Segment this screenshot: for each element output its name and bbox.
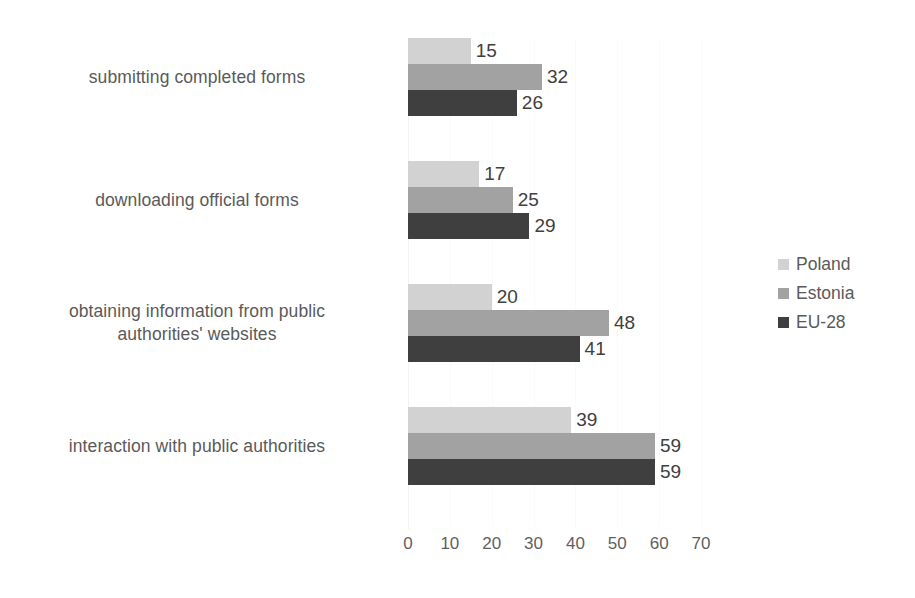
- x-tick-label-20: 20: [482, 534, 501, 554]
- bar-group: 172529: [408, 161, 701, 239]
- legend-item-eu-28[interactable]: EU-28: [778, 310, 854, 334]
- bar-row: 59: [408, 459, 701, 485]
- bar-row: 41: [408, 336, 701, 362]
- bar-row: 32: [408, 64, 701, 90]
- legend-swatch-icon: [778, 259, 789, 270]
- bar-chart: submitting completed formsdownloading of…: [0, 0, 915, 598]
- x-tick-label-40: 40: [566, 534, 585, 554]
- bar-poland[interactable]: [408, 38, 471, 64]
- category-label: submitting completed forms: [12, 66, 382, 89]
- bar-poland[interactable]: [408, 284, 492, 310]
- x-tick-label-10: 10: [440, 534, 459, 554]
- gridline-70: [701, 38, 702, 530]
- bar-estonia[interactable]: [408, 187, 513, 213]
- bar-row: 15: [408, 38, 701, 64]
- bar-value-label: 39: [571, 409, 597, 431]
- bar-eu-28[interactable]: [408, 90, 517, 116]
- legend-label: Poland: [796, 254, 851, 275]
- bar-value-label: 26: [517, 92, 543, 114]
- legend-swatch-icon: [778, 317, 789, 328]
- bar-value-label: 29: [529, 215, 555, 237]
- value-axis-tick-labels: 010203040506070: [408, 534, 701, 564]
- bar-value-label: 59: [655, 435, 681, 457]
- bar-value-label: 32: [542, 66, 568, 88]
- bar-value-label: 15: [471, 40, 497, 62]
- category-axis-labels: submitting completed formsdownloading of…: [0, 0, 392, 598]
- x-tick-label-70: 70: [692, 534, 711, 554]
- category-label: downloading official forms: [12, 189, 382, 212]
- bar-group: 204841: [408, 284, 701, 362]
- bar-value-label: 17: [479, 163, 505, 185]
- bar-poland[interactable]: [408, 407, 571, 433]
- bar-row: 26: [408, 90, 701, 116]
- bar-value-label: 41: [580, 338, 606, 360]
- bar-eu-28[interactable]: [408, 336, 580, 362]
- bar-row: 20: [408, 284, 701, 310]
- legend-item-estonia[interactable]: Estonia: [778, 281, 854, 305]
- x-tick-label-60: 60: [650, 534, 669, 554]
- bar-row: 59: [408, 433, 701, 459]
- bar-value-label: 48: [609, 312, 635, 334]
- bar-poland[interactable]: [408, 161, 479, 187]
- x-tick-label-50: 50: [608, 534, 627, 554]
- x-tick-label-30: 30: [524, 534, 543, 554]
- bar-group: 395959: [408, 407, 701, 485]
- bar-group: 153226: [408, 38, 701, 116]
- legend-label: EU-28: [796, 312, 846, 333]
- bar-estonia[interactable]: [408, 310, 609, 336]
- legend-item-poland[interactable]: Poland: [778, 252, 854, 276]
- bar-row: 17: [408, 161, 701, 187]
- legend-swatch-icon: [778, 288, 789, 299]
- category-label: interaction with public authorities: [12, 435, 382, 458]
- plot-area: 153226172529204841395959: [408, 38, 701, 530]
- category-label: obtaining information from publicauthori…: [12, 300, 382, 346]
- bar-row: 39: [408, 407, 701, 433]
- bar-value-label: 20: [492, 286, 518, 308]
- chart-legend: PolandEstoniaEU-28: [778, 252, 854, 339]
- bar-value-label: 59: [655, 461, 681, 483]
- legend-label: Estonia: [796, 283, 854, 304]
- bar-eu-28[interactable]: [408, 459, 655, 485]
- x-tick-label-0: 0: [403, 534, 412, 554]
- bar-row: 48: [408, 310, 701, 336]
- bar-eu-28[interactable]: [408, 213, 529, 239]
- bar-value-label: 25: [513, 189, 539, 211]
- bar-estonia[interactable]: [408, 64, 542, 90]
- bar-row: 25: [408, 187, 701, 213]
- bar-row: 29: [408, 213, 701, 239]
- bar-estonia[interactable]: [408, 433, 655, 459]
